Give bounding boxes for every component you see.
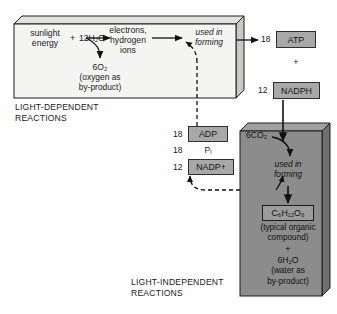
- products-line1: electrons,: [109, 26, 146, 35]
- used-in-label-dark: used in: [274, 160, 301, 169]
- nadp-chip[interactable]: NADP+: [188, 159, 234, 175]
- atp-chip[interactable]: ATP: [276, 31, 316, 48]
- water-note-line1: (water as: [271, 267, 305, 276]
- nadph-chip[interactable]: NADPH: [273, 82, 320, 99]
- sunlight-energy-line2: energy: [32, 39, 58, 48]
- light-independent-label-line2: REACTIONS: [131, 288, 183, 298]
- glucose-note-line2: compound): [268, 234, 309, 243]
- used-in-label-light: used in: [195, 28, 222, 37]
- plus-sign-carriers: +: [293, 58, 298, 68]
- oxygen-product: 6O₂: [93, 63, 108, 72]
- plus-sign-products: +: [285, 245, 290, 255]
- water-reactant: 12H₂O: [79, 34, 105, 43]
- dashed-arrow-lightindependent-to-nadp: [190, 176, 240, 190]
- adp-count: 18: [173, 130, 183, 139]
- plus-sign-inputs: +: [70, 34, 75, 44]
- oxygen-note-line1: (oxygen as: [80, 73, 121, 82]
- photosynthesis-diagram: sunlight energy + 12H₂O electrons, hydro…: [0, 0, 337, 314]
- light-independent-label-line1: LIGHT-INDEPENDENT: [131, 277, 224, 287]
- forming-label-light: forming: [195, 38, 223, 47]
- water-note-line2: by-product): [267, 278, 308, 287]
- water-product: 6H₂O: [277, 256, 298, 265]
- forming-label-dark: forming: [274, 170, 302, 179]
- light-dependent-label-line2: REACTIONS: [15, 113, 67, 123]
- oxygen-note-line2: by-product): [79, 83, 121, 92]
- atp-count: 18: [261, 35, 271, 44]
- products-line3: ions: [120, 46, 136, 55]
- sunlight-energy-line1: sunlight: [30, 29, 60, 38]
- glucose-note-line1: (typical organic: [260, 224, 315, 233]
- adp-chip[interactable]: ADP: [188, 126, 228, 142]
- pi-count: 18: [173, 146, 183, 155]
- glucose-chip[interactable]: C₆H₁₂O₆: [262, 205, 314, 221]
- carbon-dioxide-input: 6CO₂: [246, 131, 267, 140]
- products-line2: hydrogen: [110, 36, 146, 45]
- light-dependent-label-line1: LIGHT-DEPENDENT: [15, 102, 99, 112]
- nadph-count: 12: [258, 86, 268, 95]
- pi-label: Pᵢ: [204, 146, 211, 155]
- nadp-count: 12: [173, 163, 183, 172]
